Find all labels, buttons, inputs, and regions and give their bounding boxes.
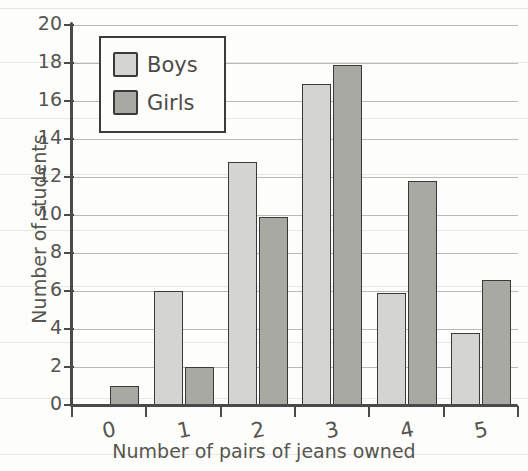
gridline <box>72 139 518 140</box>
bar-boys-3 <box>302 84 331 405</box>
legend-swatch-boys-icon <box>113 52 138 77</box>
bar-girls-4 <box>408 181 437 405</box>
x-axis-tick <box>145 406 147 417</box>
legend-swatch-girls-icon <box>113 90 138 115</box>
legend-label-boys: Boys <box>147 53 198 77</box>
bar-girls-5 <box>482 280 511 405</box>
gridline <box>72 253 518 254</box>
x-axis-tick <box>517 406 519 417</box>
legend-label-girls: Girls <box>147 91 195 115</box>
plot-area: 02468101214161820012345 <box>0 0 528 471</box>
x-axis-tick <box>368 406 370 417</box>
x-axis-tick <box>294 406 296 417</box>
gridline <box>72 25 518 26</box>
bar-boys-5 <box>451 333 480 405</box>
x-axis-line <box>72 404 518 407</box>
legend-item-boys: Boys <box>113 52 198 77</box>
y-axis-tick-label: 20 <box>28 12 62 34</box>
chart-legend: Boys Girls <box>99 36 226 133</box>
bar-boys-2 <box>228 162 257 405</box>
y-axis-line <box>70 22 73 407</box>
gridline <box>72 215 518 216</box>
bar-boys-1 <box>154 291 183 405</box>
bar-girls-0 <box>110 386 139 405</box>
bar-girls-2 <box>259 217 288 405</box>
x-axis-tick <box>220 406 222 417</box>
y-axis-title: Number of students <box>28 104 50 354</box>
y-axis-tick-label: 0 <box>28 392 62 414</box>
gridline <box>72 177 518 178</box>
legend-item-girls: Girls <box>113 90 195 115</box>
bar-girls-1 <box>185 367 214 405</box>
x-axis-title: Number of pairs of jeans owned <box>0 440 528 462</box>
x-axis-tick <box>71 406 73 417</box>
x-axis-tick <box>443 406 445 417</box>
chart-figure: 02468101214161820012345 Number of studen… <box>0 0 528 471</box>
y-axis-tick-label: 2 <box>28 354 62 376</box>
y-axis-tick-label: 18 <box>28 50 62 72</box>
gridline <box>72 291 518 292</box>
bar-girls-3 <box>333 65 362 405</box>
bar-boys-4 <box>377 293 406 405</box>
gridline <box>72 329 518 330</box>
